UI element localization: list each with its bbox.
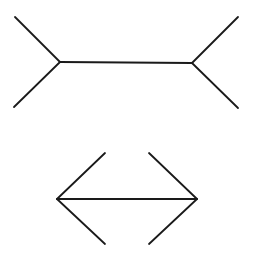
fin-line (192, 63, 238, 108)
fin-line (57, 199, 105, 244)
fin-line (15, 17, 60, 62)
figure-fins-in (57, 153, 197, 244)
fin-line (192, 17, 238, 63)
fin-line (14, 62, 60, 107)
shaft-line (60, 62, 192, 63)
diagram-canvas (0, 0, 253, 255)
fin-line (57, 153, 105, 199)
fin-line (149, 153, 197, 199)
muller-lyer-diagram (0, 0, 253, 255)
figure-fins-out (14, 17, 238, 108)
fin-line (149, 199, 197, 244)
